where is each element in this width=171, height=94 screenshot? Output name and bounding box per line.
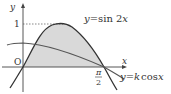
graph: y 1 O x π 2 y=sin 2x y=kcosx	[0, 0, 171, 94]
pi-numerator: π	[95, 68, 102, 77]
origin-label: O	[14, 57, 21, 67]
pi-denominator: 2	[96, 78, 101, 87]
label-sin2x: y=sin 2x	[83, 13, 128, 24]
x-axis-label: x	[122, 56, 127, 66]
y-axis-label: y	[9, 2, 16, 12]
label-kcosx: y=kcosx	[119, 71, 164, 82]
y-axis-arrow-icon	[21, 3, 25, 8]
y-tick-one: 1	[14, 19, 20, 29]
